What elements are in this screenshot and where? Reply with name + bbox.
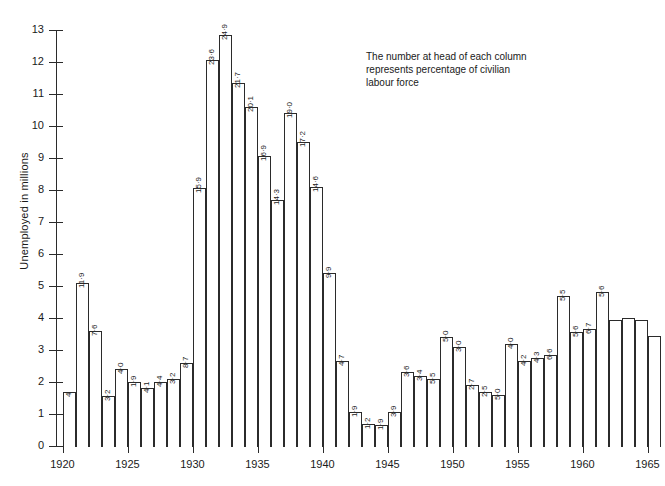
bar [167,379,180,447]
bar-value-label: 21·7 [234,72,242,88]
x-tick-mark [128,446,129,453]
bar-value-label: 14·3 [273,189,281,205]
bar-value-label: 4 [65,392,73,396]
bar-value-label: 3·0 [455,340,463,352]
bar [505,344,518,447]
bar-value-label: 11·9 [78,272,86,287]
y-tick-mark [49,30,56,31]
x-tick-mark [63,446,64,453]
x-tick-label: 1930 [173,458,213,470]
x-tick-mark [518,446,519,453]
bar [76,283,89,447]
bar-value-label: 5·0 [442,331,450,343]
bar [310,187,323,447]
y-tick-mark [49,446,56,447]
y-tick-mark-inner [57,286,63,287]
bar-value-label: 8·7 [182,356,190,368]
bar-value-label: 3·4 [416,369,424,381]
bar [284,113,297,447]
bar-value-label: 4·0 [507,337,515,349]
bar [453,347,466,447]
bar [492,395,505,447]
bar [349,412,362,447]
bar [479,392,492,447]
y-tick-mark [49,318,56,319]
y-tick-mark-inner [57,382,63,383]
bar [544,355,557,447]
y-tick-mark [49,350,56,351]
x-tick-mark [323,446,324,453]
bar-value-label: 2·7 [468,379,476,391]
y-tick-label: 12 [18,55,44,67]
bar [557,296,570,447]
bar-value-label: 1·9 [351,406,359,418]
bar-value-label: 3·6 [403,366,411,378]
bar-value-label: 5·5 [559,289,567,301]
y-tick-label: 4 [18,311,44,323]
bar [635,320,648,447]
bar-value-label: 4·0 [117,363,125,375]
bar [141,388,154,447]
bar [245,107,258,447]
bar-value-label: 4·3 [533,351,541,363]
y-tick-mark-inner [57,94,63,95]
bar-value-label: 23·6 [208,49,216,65]
bar [115,369,128,447]
y-tick-label: 6 [18,247,44,259]
bar [427,379,440,447]
bar-value-label: 17·2 [299,131,307,147]
bar [401,372,414,447]
bar-value-label: 1·9 [130,375,138,387]
y-axis-line [56,30,57,446]
bar-value-label: 19·0 [286,102,294,118]
bar [531,358,544,447]
bar [388,412,401,447]
y-tick-mark-inner [57,158,63,159]
bar-value-label: 5·5 [429,372,437,384]
y-tick-label: 0 [18,439,44,451]
y-tick-mark [49,382,56,383]
x-tick-label: 1940 [303,458,343,470]
annotation-line-1: The number at head of each column [366,50,546,63]
y-tick-mark-inner [57,350,63,351]
y-tick-label: 7 [18,215,44,227]
x-tick-label: 1935 [238,458,278,470]
bar-value-label: 6·6 [546,348,554,360]
bar-value-label: 4·4 [156,375,164,387]
bar [128,382,141,447]
bar [102,396,115,447]
bar-value-label: 5·0 [494,388,502,400]
bar [258,156,271,447]
bar [609,320,622,447]
bar [323,273,336,447]
bar-value-label: 16·9 [260,145,268,161]
x-tick-mark [258,446,259,453]
x-tick-label: 1945 [368,458,408,470]
bar-value-label: 15·9 [195,177,203,193]
bar-value-label: 20·1 [247,96,255,112]
bar [154,382,167,447]
bar-value-label: 6·7 [585,323,593,335]
y-tick-mark [49,222,56,223]
y-tick-mark [49,190,56,191]
bar-value-label: 5·6 [598,286,606,298]
y-tick-mark [49,62,56,63]
bar [89,331,102,447]
x-tick-mark [583,446,584,453]
bar [336,361,349,447]
bar [180,363,193,447]
bar [193,188,206,447]
bar-value-label: 1·2 [364,417,372,429]
y-tick-mark [49,286,56,287]
y-tick-mark-inner [57,318,63,319]
y-tick-mark [49,94,56,95]
bar [583,329,596,447]
bar-value-label: 9·9 [325,267,333,279]
y-tick-mark-inner [57,190,63,191]
y-tick-label: 11 [18,87,44,99]
y-tick-label: 5 [18,279,44,291]
bar [648,336,661,447]
bar-value-label: 3·2 [169,372,177,384]
bar [206,60,219,447]
